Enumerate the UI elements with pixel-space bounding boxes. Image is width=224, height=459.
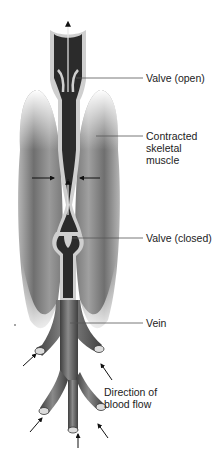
right-muscle [75,90,120,340]
label-valve-closed: Valve (closed) [146,232,212,244]
label-vein: Vein [146,317,166,329]
label-valve-open: Valve (open) [146,72,205,84]
flow-arrow-2 [101,364,112,380]
flow-arrow-5 [98,424,108,438]
flow-arrow-1 [23,354,36,366]
flow-arrow-3 [30,418,42,432]
label-direction-of-blood-flow: Direction of blood flow [104,386,157,410]
stray-dot [14,324,16,326]
label-contracted-muscle: Contracted skeletal muscle [146,130,197,166]
